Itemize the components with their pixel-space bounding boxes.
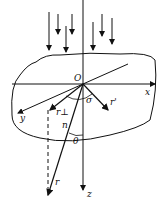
label-origin: O bbox=[74, 74, 81, 83]
label-r-perp: r⊥ bbox=[56, 108, 69, 117]
label-n: n bbox=[62, 121, 68, 130]
label-y-axis: y bbox=[20, 114, 25, 123]
label-x-axis: x bbox=[145, 88, 150, 97]
label-r: r bbox=[55, 178, 59, 187]
incident-beam-arrows bbox=[49, 12, 112, 52]
y-axis bbox=[18, 84, 83, 113]
label-r-prime: r' bbox=[110, 98, 117, 107]
scattering-diagram bbox=[0, 0, 164, 206]
label-theta: θ bbox=[73, 137, 78, 146]
label-z-axis: z bbox=[87, 190, 92, 199]
sample-outline bbox=[12, 53, 156, 141]
label-sigma: σ bbox=[86, 96, 92, 105]
